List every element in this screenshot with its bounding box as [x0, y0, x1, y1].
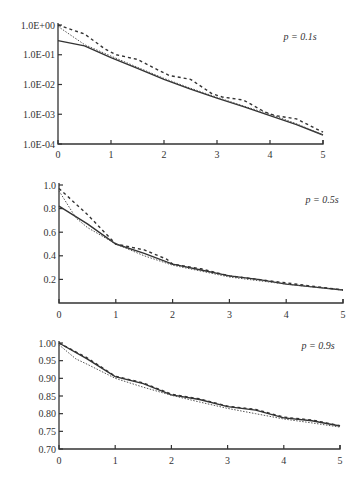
y-tick-label: 1.0E-04: [23, 139, 55, 150]
panel-label: p = 0.9s: [300, 340, 334, 351]
y-tick-label: 1.0: [44, 180, 57, 191]
axes: [59, 341, 340, 449]
x-tick-label: 0: [57, 309, 62, 320]
x-tick-label: 5: [338, 455, 343, 466]
x-tick-label: 5: [341, 309, 346, 320]
series-dashed-line: [59, 189, 343, 291]
y-tick-label: 1.0E-01: [23, 49, 55, 60]
x-tick-label: 1: [113, 455, 118, 466]
y-tick-label: 0.6: [44, 227, 57, 238]
x-tick-label: 0: [57, 455, 62, 466]
chart-panel-3: 0123451.000.950.900.850.800.750.70p = 0.…: [39, 338, 343, 467]
y-tick-label: 0.70: [39, 444, 57, 455]
x-tick-label: 3: [227, 309, 232, 320]
x-tick-label: 3: [215, 149, 220, 160]
x-tick-label: 2: [170, 309, 175, 320]
y-tick-label: 0.4: [44, 250, 57, 261]
chart-panel-2: 0123451.00.80.60.40.2p = 0.5s: [44, 180, 346, 321]
y-tick-label: 0.75: [39, 426, 57, 437]
x-tick-label: 5: [321, 149, 326, 160]
series-dotted-line: [59, 345, 340, 427]
x-tick-label: 4: [284, 309, 289, 320]
series-dotted-line: [58, 26, 323, 135]
y-tick-label: 0.85: [39, 391, 57, 402]
series-solid-line: [59, 343, 340, 426]
x-tick-label: 4: [281, 455, 286, 466]
x-tick-label: 0: [56, 149, 61, 160]
x-tick-label: 2: [169, 455, 174, 466]
y-tick-label: 0.80: [39, 408, 57, 419]
y-tick-label: 1.0E+00: [21, 20, 55, 31]
series-dotted-line: [59, 191, 343, 290]
series-solid-line: [58, 41, 323, 135]
chart-figure: 0123451.0E+001.0E-011.0E-021.0E-031.0E-0…: [0, 0, 361, 478]
series-dashed-line: [59, 343, 340, 426]
y-tick-label: 0.90: [39, 373, 57, 384]
x-tick-label: 1: [113, 309, 118, 320]
chart-panel-1: 0123451.0E+001.0E-011.0E-021.0E-031.0E-0…: [21, 20, 326, 161]
y-tick-label: 0.2: [44, 274, 57, 285]
y-tick-label: 0.95: [39, 355, 57, 366]
x-tick-label: 4: [268, 149, 273, 160]
series-solid-line: [59, 206, 343, 290]
y-tick-label: 0.8: [44, 203, 57, 214]
y-tick-label: 1.0E-03: [23, 109, 55, 120]
panel-label: p = 0.5s: [304, 194, 338, 205]
x-tick-label: 1: [109, 149, 114, 160]
panel-label: p = 0.1s: [282, 31, 316, 42]
y-tick-label: 1.00: [39, 338, 57, 349]
y-tick-label: 1.0E-02: [23, 79, 55, 90]
x-tick-label: 3: [225, 455, 230, 466]
x-tick-label: 2: [162, 149, 167, 160]
